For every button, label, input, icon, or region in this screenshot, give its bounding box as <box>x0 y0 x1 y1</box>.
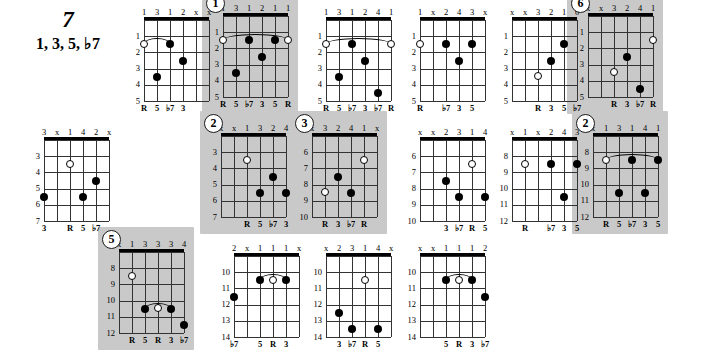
finger-label: 1 <box>558 8 571 17</box>
fret-number: 8 <box>404 184 416 193</box>
fret-line <box>420 272 485 273</box>
string-line <box>158 252 159 333</box>
interval-label: 5 <box>254 340 267 349</box>
finger-dot <box>623 53 631 61</box>
finger-label: 1 <box>64 128 77 137</box>
string-line <box>236 16 237 97</box>
interval-label: ♭7 <box>372 104 385 113</box>
interval-label: ♭7 <box>164 104 177 113</box>
nut <box>512 137 577 141</box>
string-line <box>551 140 552 221</box>
string-line <box>593 136 594 217</box>
finger-label: x <box>479 8 492 17</box>
interval-row: R5♭735 <box>587 220 665 229</box>
nut <box>119 249 184 253</box>
interval-label: 3 <box>256 100 269 109</box>
chord-diagram: x1x24389101112R♭735 <box>496 126 582 233</box>
fret-number: 9 <box>404 200 416 209</box>
finger-label: 1 <box>138 8 151 17</box>
string-line <box>286 136 287 217</box>
interval-row: R5♭73 <box>215 220 293 229</box>
fret-line <box>420 288 485 289</box>
root-dot <box>154 304 162 312</box>
interval-label: R <box>532 104 545 113</box>
fret-number-column: 34567 <box>28 140 41 221</box>
interval-label: R <box>608 100 621 109</box>
finger-label: 3 <box>346 244 359 253</box>
interval-row: R5R3♭7 <box>113 336 191 345</box>
root-dot <box>360 156 368 164</box>
finger-dot <box>481 193 489 201</box>
interval-label: R <box>453 340 466 349</box>
interval-label: R <box>358 220 371 229</box>
interval-label: ♭7 <box>90 224 103 233</box>
fret-number: 1 <box>207 28 219 37</box>
finger-label: x <box>103 128 116 137</box>
finger-label: 3 <box>613 124 626 133</box>
finger-label: x <box>427 128 440 137</box>
string-line <box>312 136 313 217</box>
fret-line <box>44 156 109 157</box>
fret-number: 1 <box>404 32 416 41</box>
string-line <box>365 256 366 337</box>
finger-label: 1 <box>414 8 427 17</box>
fret-number: 11 <box>218 284 230 293</box>
interval-row: R5♭73♭7R <box>320 104 398 113</box>
fret-line <box>312 152 377 153</box>
interval-label: R <box>241 220 254 229</box>
interval-label: R <box>466 224 479 233</box>
nut <box>44 137 109 141</box>
finger-label: 4 <box>639 124 652 133</box>
fret-line <box>512 205 577 206</box>
fret-number: 10 <box>404 268 416 277</box>
finger-label: x <box>427 244 440 253</box>
finger-dot <box>442 177 450 185</box>
nut <box>223 13 288 17</box>
interval-label: 3 <box>333 340 346 349</box>
fret-line <box>512 20 577 21</box>
fret-number: 3 <box>205 148 217 157</box>
fret-line <box>588 97 653 98</box>
fret-line <box>144 69 209 70</box>
fret-line <box>512 52 577 53</box>
fret-line <box>588 16 653 17</box>
finger-label: 2 <box>359 8 372 17</box>
finger-label: 3 <box>333 8 346 17</box>
fret-number: 3 <box>404 64 416 73</box>
fret-number: 4 <box>572 76 584 85</box>
string-line <box>446 20 447 101</box>
fret-line <box>593 201 658 202</box>
interval-label: R <box>359 340 372 349</box>
finger-label: 3 <box>38 128 51 137</box>
interval-label: 3 <box>621 100 634 109</box>
finger-label: x <box>519 8 532 17</box>
fret-line <box>312 168 377 169</box>
fret-number: 8 <box>296 180 308 189</box>
finger-label: 2 <box>440 8 453 17</box>
fret-number: 4 <box>205 164 217 173</box>
string-line <box>485 20 486 101</box>
fretboard-grid <box>512 20 577 101</box>
string-line <box>485 140 486 221</box>
finger-label: 4 <box>178 240 191 249</box>
fret-line <box>512 172 577 173</box>
fret-number: 13 <box>404 316 416 325</box>
fretboard-grid <box>420 256 485 337</box>
finger-dot <box>282 189 290 197</box>
finger-label: 1 <box>600 124 613 133</box>
string-line <box>249 16 250 97</box>
chord-diagram: 6xx324112345R3♭7R <box>572 2 658 109</box>
string-line <box>326 20 327 101</box>
finger-dot <box>455 57 463 65</box>
fret-number-column: 34567 <box>205 136 218 217</box>
fret-line <box>326 288 391 289</box>
finger-label: 1 <box>254 244 267 253</box>
fret-number: 2 <box>572 44 584 53</box>
chord-diagram: 1x243x12345R♭735 <box>404 6 490 113</box>
interval-label <box>203 104 216 113</box>
finger-label: 1 <box>440 244 453 253</box>
chord-diagram: xx111210111213145R3♭7 <box>404 242 490 349</box>
root-dot <box>219 36 227 44</box>
interval-label: 3 <box>280 340 293 349</box>
string-line <box>472 20 473 101</box>
